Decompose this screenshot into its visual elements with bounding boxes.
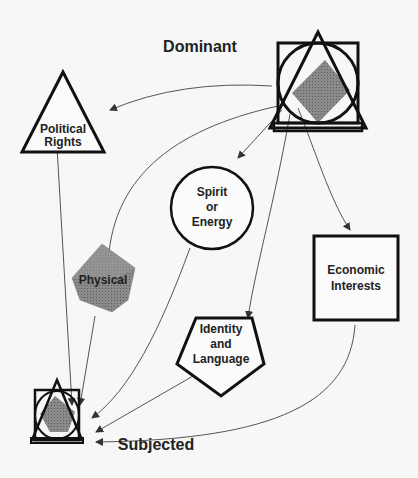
subjected-symbol bbox=[31, 380, 83, 443]
dominant-label: Dominant bbox=[163, 38, 237, 55]
edge-dominant-political bbox=[110, 85, 272, 110]
edge-dominant-identity bbox=[248, 114, 290, 318]
edge-political-subjected bbox=[56, 130, 72, 405]
node-identity-language: Identity and Language bbox=[177, 318, 264, 396]
edge-dominant-economic bbox=[298, 108, 350, 230]
identity-label-1: Identity bbox=[200, 322, 243, 336]
diagram-canvas: Dominant Political Rights Spirit or Ener… bbox=[0, 0, 418, 478]
identity-label-3: Language bbox=[193, 352, 250, 366]
political-label-1: Political bbox=[40, 122, 86, 136]
economic-label-2: Interests bbox=[331, 279, 381, 293]
node-economic-interests: Economic Interests bbox=[314, 236, 398, 320]
spirit-label-1: Spirit bbox=[197, 185, 228, 199]
political-label-2: Rights bbox=[44, 135, 82, 149]
diagram-svg: Dominant Political Rights Spirit or Ener… bbox=[0, 0, 418, 478]
node-physical: Physical bbox=[72, 244, 135, 312]
node-spirit-energy: Spirit or Energy bbox=[171, 167, 253, 249]
identity-label-2: and bbox=[210, 337, 231, 351]
economic-label-1: Economic bbox=[327, 263, 385, 277]
physical-label: Physical bbox=[79, 273, 128, 287]
node-political-rights: Political Rights bbox=[22, 72, 104, 152]
subjected-label: Subjected bbox=[118, 436, 194, 453]
edge-identity-subjected bbox=[96, 372, 200, 432]
edge-physical-subjected bbox=[80, 316, 95, 405]
spirit-label-3: Energy bbox=[192, 215, 233, 229]
dominant-symbol bbox=[270, 32, 366, 131]
spirit-label-2: or bbox=[206, 200, 218, 214]
